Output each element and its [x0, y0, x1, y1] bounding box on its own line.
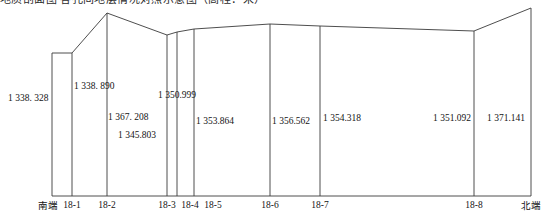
station-label-18-3: 18-3: [155, 200, 179, 211]
station-label-18-5: 18-5: [201, 200, 225, 211]
elev-label-18-2-low: 1 345.803: [118, 130, 156, 141]
station-label-18-1: 18-1: [60, 200, 84, 211]
elev-label-18-1: 1 338. 890: [74, 81, 114, 92]
elev-label-south-end: 1 338. 328: [8, 93, 48, 104]
station-label-18-2: 18-2: [95, 200, 119, 211]
profile-diagram-page: 地质剖面图 各孔间地层情况对照示意图（高程：米） 1 338. 328 1 33…: [0, 0, 549, 217]
geological-profile-drawing: [0, 0, 549, 217]
station-label-18-8: 18-8: [462, 200, 486, 211]
elev-label-18-3: 1 350.999: [158, 90, 196, 101]
station-label-south-end: 南端: [36, 200, 60, 211]
elev-label-18-7: 1 354.318: [323, 113, 361, 124]
elev-label-18-6: 1 356.562: [272, 116, 310, 127]
ground-surface-line: [52, 8, 531, 53]
borehole-lines: [52, 8, 531, 196]
station-label-north-end: 北端: [519, 200, 543, 211]
station-label-18-6: 18-6: [258, 200, 282, 211]
elev-label-north-end: 1 371.141: [487, 113, 525, 124]
elev-label-18-8: 1 351.092: [433, 113, 471, 124]
station-label-18-4: 18-4: [178, 200, 202, 211]
elev-label-18-5: 1 353.864: [196, 116, 234, 127]
elev-label-18-2: 1 367. 208: [108, 112, 148, 123]
station-label-18-7: 18-7: [308, 200, 332, 211]
